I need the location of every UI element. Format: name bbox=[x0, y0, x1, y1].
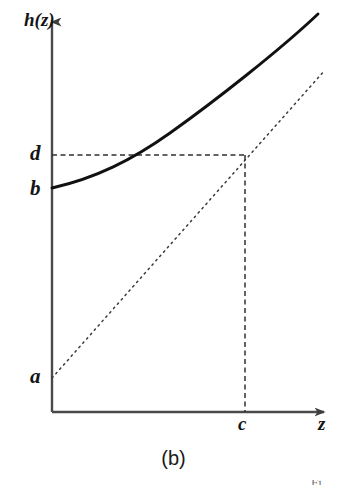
figure-panel-b: h(z) d b a c z (b) Fi bbox=[0, 0, 347, 486]
plot-canvas bbox=[0, 0, 347, 486]
tick-label-b: b bbox=[30, 178, 41, 199]
h-of-z-curve bbox=[52, 14, 318, 188]
tick-label-a: a bbox=[30, 366, 41, 387]
cropped-caption-fragment: Fi bbox=[311, 480, 345, 485]
tick-label-d: d bbox=[30, 143, 41, 164]
y-axis-label: h(z) bbox=[24, 10, 55, 29]
tick-label-c: c bbox=[238, 414, 246, 433]
panel-caption: (b) bbox=[0, 447, 347, 470]
dotted-line-through-a bbox=[52, 70, 325, 378]
x-axis-label: z bbox=[318, 414, 325, 433]
